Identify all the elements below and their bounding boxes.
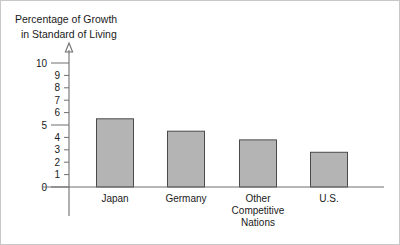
y-axis-ticks: 012345678910 xyxy=(36,58,69,193)
y-tick-label: 4 xyxy=(54,132,60,143)
x-axis-labels: JapanGermanyOtherCompetitiveNationsU.S. xyxy=(101,193,338,228)
y-tick-label: 3 xyxy=(54,144,60,155)
y-tick-label: 6 xyxy=(54,107,60,118)
x-tick-label: Competitive xyxy=(232,205,285,216)
bars-group xyxy=(97,119,348,187)
y-tick-label: 7 xyxy=(54,95,60,106)
y-axis-title-line-1: Percentage of Growth xyxy=(15,13,117,25)
y-axis-title-line-2: in Standard of Living xyxy=(21,28,117,40)
axis-title-group: Percentage of Growth in Standard of Livi… xyxy=(15,13,117,40)
x-tick-label: Nations xyxy=(241,217,275,228)
y-tick-label: 10 xyxy=(36,58,48,69)
y-tick-label: 9 xyxy=(54,70,60,81)
bar-chart-canvas: Percentage of Growth in Standard of Livi… xyxy=(1,1,400,245)
chart-figure: Percentage of Growth in Standard of Livi… xyxy=(0,0,400,245)
bar xyxy=(168,131,205,187)
y-tick-label: 5 xyxy=(41,120,47,131)
bar xyxy=(240,140,277,187)
bar xyxy=(97,119,134,187)
x-tick-label: U.S. xyxy=(319,193,338,204)
y-tick-label: 2 xyxy=(54,157,60,168)
bar xyxy=(311,152,348,187)
y-tick-label: 1 xyxy=(54,169,60,180)
y-tick-label: 8 xyxy=(54,82,60,93)
x-tick-label: Japan xyxy=(101,193,128,204)
x-tick-label: Other xyxy=(245,193,271,204)
x-tick-label: Germany xyxy=(165,193,206,204)
